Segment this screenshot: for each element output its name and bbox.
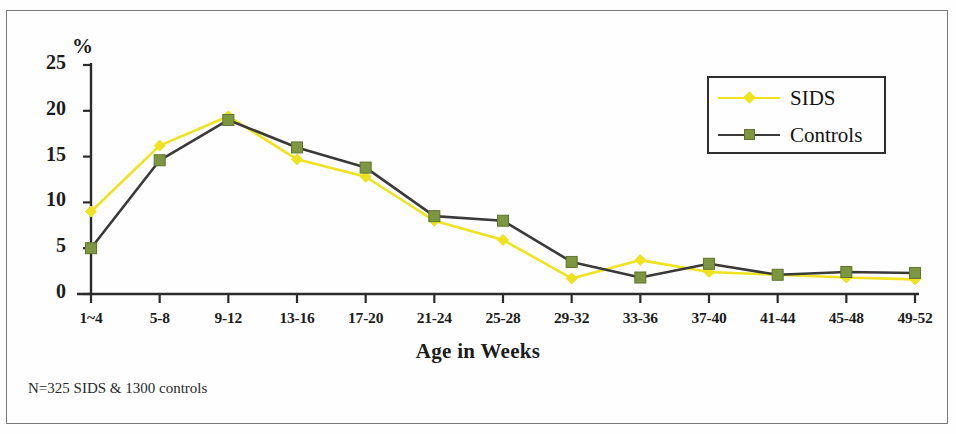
data-point-marker <box>429 211 440 222</box>
square-marker-icon <box>744 129 755 140</box>
data-point-marker <box>498 234 509 245</box>
data-point-marker <box>910 267 921 278</box>
legend-label-sids: SIDS <box>790 86 836 111</box>
data-point-marker <box>223 114 234 125</box>
data-point-marker <box>635 272 646 283</box>
legend-swatch-controls <box>718 124 780 146</box>
legend-entry-controls[interactable]: Controls <box>709 118 888 152</box>
chart-legend: SIDS Controls <box>707 76 886 154</box>
data-point-marker <box>772 269 783 280</box>
x-axis-title: Age in Weeks <box>0 339 956 364</box>
data-point-marker <box>635 255 646 266</box>
chart-canvas: % 0510152025 1~45-89-1213-1617-2021-2425… <box>0 0 956 434</box>
legend-swatch-sids <box>718 87 780 109</box>
data-point-marker <box>498 215 509 226</box>
plot-svg <box>0 0 956 434</box>
legend-label-controls: Controls <box>790 123 862 148</box>
legend-entry-sids[interactable]: SIDS <box>709 81 888 115</box>
data-point-marker <box>566 256 577 267</box>
data-point-marker <box>154 155 165 166</box>
footnote-text: N=325 SIDS & 1300 controls <box>28 380 207 397</box>
data-point-marker <box>704 258 715 269</box>
diamond-marker-icon <box>743 91 756 104</box>
data-point-marker <box>841 267 852 278</box>
data-point-marker <box>292 142 303 153</box>
data-point-marker <box>360 162 371 173</box>
data-point-marker <box>86 243 97 254</box>
chart-page: % 0510152025 1~45-89-1213-1617-2021-2425… <box>0 0 956 434</box>
data-point-marker <box>566 273 577 284</box>
